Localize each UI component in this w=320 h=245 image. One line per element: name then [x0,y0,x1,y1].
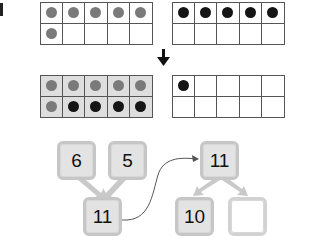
bond-right-whole: 11 [200,141,239,180]
bond-left-whole: 11 [83,197,122,236]
bond-left-part-a: 6 [57,141,96,180]
bond-left-part-b: 5 [108,141,147,180]
bond-right-part-b-empty[interactable] [228,197,267,236]
bond-right-part-a: 10 [175,197,214,236]
bond-arrows-right [193,180,248,196]
curve-arrowhead-icon [192,155,199,162]
down-arrow-icon [157,49,170,66]
